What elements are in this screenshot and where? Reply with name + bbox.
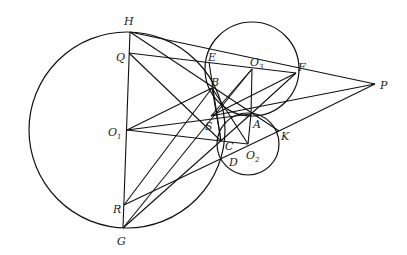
point-label-c: C: [225, 140, 234, 153]
point-label-b: B: [210, 76, 219, 89]
point-label-k: K: [280, 130, 290, 143]
segment-o1-b: [127, 88, 212, 130]
geometry-diagram: HQO1RGEBO3FPSAKCDO2: [0, 0, 407, 255]
point-label-p: P: [379, 79, 388, 92]
point-label-f: F: [297, 61, 306, 74]
segment-h-k: [130, 32, 279, 131]
segment-f-a: [251, 73, 296, 114]
point-label-o2: O2: [246, 149, 260, 164]
point-label-h: H: [123, 15, 134, 28]
point-label-s: S: [205, 120, 213, 133]
point-label-a: A: [252, 118, 261, 131]
point-label-e: E: [207, 51, 216, 64]
point-label-o3: O3: [250, 56, 264, 71]
point-label-r: R: [112, 203, 121, 216]
segment-o1-a: [127, 114, 251, 130]
point-label-d: D: [228, 156, 238, 169]
point-label-o1: O1: [108, 126, 122, 141]
segment-o3-a: [251, 69, 252, 114]
segment-a-o2: [248, 114, 251, 144]
point-label-g: G: [117, 235, 126, 248]
point-label-q: Q: [116, 51, 125, 64]
